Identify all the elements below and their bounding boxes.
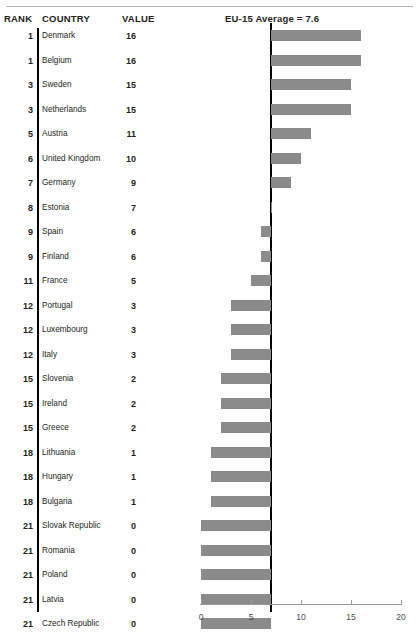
table-row: 3Sweden15 [0,76,419,101]
row-country: Luxembourg [42,325,88,334]
table-row: 12Luxembourg3 [0,321,419,346]
table-row: 15Greece2 [0,419,419,444]
row-rank: 18 [0,448,33,458]
x-axis-tick-label: 5 [249,612,254,622]
row-rank: 1 [0,31,33,41]
row-country: Ireland [42,399,67,408]
x-axis-tick [401,600,402,605]
row-rank: 9 [0,227,33,237]
column-header-country: COUNTRY [42,13,90,24]
row-country: Lithuania [42,448,75,457]
row-country: Portugal [42,301,73,310]
row-rank: 21 [0,521,33,531]
table-row: 8Estonia7 [0,199,419,224]
table-row: 1Denmark16 [0,27,419,52]
row-value: 3 [110,350,136,360]
x-axis-tick-label: 0 [199,612,204,622]
table-row: 18Hungary1 [0,468,419,493]
row-country: Bulgaria [42,497,72,506]
row-country: France [42,276,67,285]
row-country: Spain [42,227,63,236]
row-value: 2 [110,399,136,409]
table-row: 7Germany9 [0,174,419,199]
x-axis-tick [351,600,352,605]
row-value: 0 [110,570,136,580]
row-country: Poland [42,570,68,579]
table-row: 9Spain6 [0,223,419,248]
table-row: 15Ireland2 [0,395,419,420]
row-value: 1 [110,448,136,458]
row-rank: 12 [0,301,33,311]
row-rank: 7 [0,178,33,188]
table-row: 21Romania0 [0,542,419,567]
row-rank: 15 [0,374,33,384]
table-row: 18Bulgaria1 [0,493,419,518]
row-rank: 12 [0,325,33,335]
row-value: 9 [110,178,136,188]
row-country: Czech Republic [42,619,99,628]
x-axis-tick-label: 20 [396,612,405,622]
row-country: Belgium [42,56,72,65]
table-row: 1Belgium16 [0,52,419,77]
row-rank: 3 [0,105,33,115]
row-country: Estonia [42,203,69,212]
row-country: Slovak Republic [42,521,101,530]
row-country: Netherlands [42,105,86,114]
row-value: 11 [110,129,136,139]
row-rank: 21 [0,546,33,556]
row-value: 10 [110,154,136,164]
row-rank: 5 [0,129,33,139]
row-rank: 12 [0,350,33,360]
row-country: Hungary [42,472,73,481]
row-rank: 15 [0,399,33,409]
row-value: 16 [110,56,136,66]
row-value: 0 [110,619,136,629]
row-value: 0 [110,595,136,605]
row-value: 15 [110,105,136,115]
row-rank: 11 [0,276,33,286]
row-country: Sweden [42,80,72,89]
row-rank: 9 [0,252,33,262]
row-country: Italy [42,350,57,359]
row-country: Romania [42,546,75,555]
row-value: 3 [110,301,136,311]
row-value: 2 [110,374,136,384]
table-row: 5Austria11 [0,125,419,150]
table-row: 15Slovenia2 [0,370,419,395]
row-country: United Kingdom [42,154,100,163]
row-value: 0 [110,546,136,556]
table-row: 6United Kingdom10 [0,150,419,175]
row-value: 7 [110,203,136,213]
row-value: 0 [110,521,136,531]
row-rank: 6 [0,154,33,164]
row-rank: 18 [0,472,33,482]
table-row: 11France5 [0,272,419,297]
row-rank: 15 [0,423,33,433]
row-rank: 3 [0,80,33,90]
row-value: 16 [110,31,136,41]
row-country: Austria [42,129,67,138]
row-rank: 21 [0,595,33,605]
column-header-value: VALUE [122,13,155,24]
x-axis-tick [201,600,202,605]
table-row: 3Netherlands15 [0,101,419,126]
table-row: 21Czech Republic0 [0,615,419,632]
row-value: 3 [110,325,136,335]
data-row-list: 1Denmark161Belgium163Sweden153Netherland… [0,27,419,632]
table-row: 18Lithuania1 [0,444,419,469]
table-row: 21Slovak Republic0 [0,517,419,542]
column-header-rank: RANK [4,13,32,24]
table-row: 12Italy3 [0,346,419,371]
x-axis-tick [301,600,302,605]
row-country: Denmark [42,31,75,40]
x-axis-tick-label: 15 [346,612,355,622]
row-rank: 8 [0,203,33,213]
table-row: 12Portugal3 [0,297,419,322]
row-rank: 1 [0,56,33,66]
row-country: Greece [42,423,69,432]
row-value: 1 [110,472,136,482]
row-value: 1 [110,497,136,507]
row-value: 6 [110,252,136,262]
row-rank: 21 [0,619,33,629]
row-value: 2 [110,423,136,433]
